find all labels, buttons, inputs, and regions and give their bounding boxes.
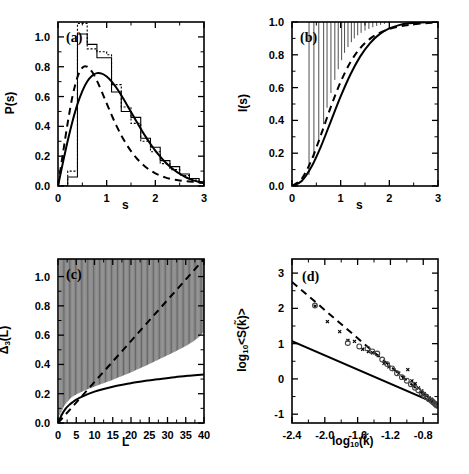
y-tick-label: 1.0 (35, 271, 50, 283)
y-tick-label: 0.0 (35, 417, 50, 429)
panel-d-plot: -2.4-2.0-1.6-1.2-0.8-10123 (d) (234, 237, 469, 452)
panel-c-yaxis-subscript: 3 (3, 341, 12, 345)
x-tick-label: 25 (143, 429, 155, 441)
x-tick-label: 35 (180, 429, 192, 441)
x-tick-label: 2 (152, 192, 158, 204)
panel-d-xaxis-title: log10(k̃) (332, 434, 374, 448)
x-tick-label: 3 (201, 192, 207, 204)
panel-c: 05101520253035400.00.20.40.60.81.0 (c) L… (0, 237, 235, 452)
series-solid (58, 73, 204, 186)
panel-d-xaxis-log: log (332, 434, 350, 448)
series-histogram-dotted (58, 23, 204, 186)
x-tick-label: 40 (198, 429, 210, 441)
panel-d-yaxis-tail: <S(k̃)> (235, 308, 249, 345)
y-tick-label: 0.8 (35, 300, 50, 312)
x-tick-label: 0 (289, 192, 295, 204)
x-tick-label: 3 (435, 192, 441, 204)
panel-c-plot: 05101520253035400.00.20.40.60.81.0 (c) (0, 237, 235, 452)
x-tick-label: 0 (55, 429, 61, 441)
x-tick-label: 5 (73, 429, 79, 441)
y-tick-label: 0.8 (35, 61, 50, 73)
x-tick-label: 15 (107, 429, 119, 441)
y-tick-label: -1 (274, 408, 284, 420)
y-tick-label: 0.4 (35, 358, 51, 370)
y-tick-label: 1 (278, 338, 284, 350)
panel-a-yaxis-title: P(s) (3, 92, 17, 115)
panel-a-plot: 01230.00.20.40.60.81.0 (a) (0, 0, 235, 215)
y-tick-label: 0.2 (35, 388, 50, 400)
y-tick-label: 0.4 (269, 114, 285, 126)
panel-d: -2.4-2.0-1.6-1.2-0.8-10123 (d) log10(k̃)… (234, 237, 469, 452)
panel-b-content (292, 1, 438, 186)
y-tick-label: 0 (278, 373, 284, 385)
y-tick-label: 0.6 (35, 91, 50, 103)
panel-a-xaxis-title: s (122, 198, 129, 212)
series-solid (58, 374, 204, 423)
series-markers-diamond (60, 237, 204, 415)
x-tick-label: 0 (55, 192, 61, 204)
x-tick-label: 1 (338, 192, 344, 204)
panel-b-xaxis-title: s (356, 198, 363, 212)
panel-c-yaxis-title: Δ3(L) (0, 326, 11, 354)
panel-d-yaxis-subscript: 10 (241, 345, 250, 354)
panel-b-yaxis-title: I(s) (236, 94, 250, 112)
panel-d-tick-labels: -2.4-2.0-1.6-1.2-0.8-10123 (274, 259, 438, 441)
figure-canvas: 01230.00.20.40.60.81.0 (a) s P(s) 01230.… (0, 0, 469, 474)
series-markers-diamond (309, 1, 433, 175)
series-dashed (58, 66, 204, 186)
panel-a-content (58, 23, 204, 186)
y-tick-label: 0.4 (35, 120, 51, 132)
panel-d-yaxis-log: log (235, 354, 249, 372)
y-tick-label: 3 (278, 267, 284, 279)
y-tick-label: 1.0 (35, 31, 50, 43)
x-tick-label: 10 (88, 429, 100, 441)
panel-b-tag: (b) (300, 30, 317, 46)
x-tick-label: 30 (161, 429, 173, 441)
panel-b: 01230.00.20.40.60.81.0 (b) s I(s) (234, 0, 469, 215)
y-tick-label: 0.6 (35, 329, 50, 341)
panel-c-yaxis-tail: (L) (0, 326, 11, 341)
series-solid (292, 341, 438, 404)
panel-d-xaxis-subscript: 10 (350, 440, 359, 449)
y-tick-label: 0.8 (269, 49, 284, 61)
panel-b-plot: 01230.00.20.40.60.81.0 (b) (234, 0, 469, 215)
y-tick-label: 0.6 (269, 82, 284, 94)
y-tick-label: 0.2 (35, 150, 50, 162)
y-tick-label: 0.0 (269, 180, 284, 192)
panel-d-tag: (d) (302, 269, 319, 285)
x-tick-label: -2.4 (283, 429, 303, 441)
x-tick-label: -0.8 (414, 429, 433, 441)
panel-a-tag: (a) (66, 30, 83, 46)
panel-c-xaxis-title: L (122, 435, 129, 449)
panel-a: 01230.00.20.40.60.81.0 (a) s P(s) (0, 0, 235, 215)
y-tick-label: 1.0 (269, 16, 284, 28)
panel-d-content (292, 282, 440, 408)
x-tick-label: 2 (386, 192, 392, 204)
panel-c-tag: (c) (66, 267, 82, 283)
y-tick-label: 2 (278, 302, 284, 314)
panel-b-tick-labels: 01230.00.20.40.60.81.0 (269, 16, 441, 204)
panel-d-xaxis-tail: (k̃) (359, 434, 374, 448)
y-tick-label: 0.2 (269, 147, 284, 159)
panel-c-content (58, 237, 204, 423)
panel-a-frame (58, 22, 204, 186)
y-tick-label: 0.0 (35, 180, 50, 192)
x-tick-label: 1 (104, 192, 110, 204)
panel-d-yaxis-title: log10<S(k̃)> (235, 308, 249, 372)
panel-c-yaxis-delta: Δ (0, 346, 11, 355)
x-tick-label: -1.2 (381, 429, 400, 441)
